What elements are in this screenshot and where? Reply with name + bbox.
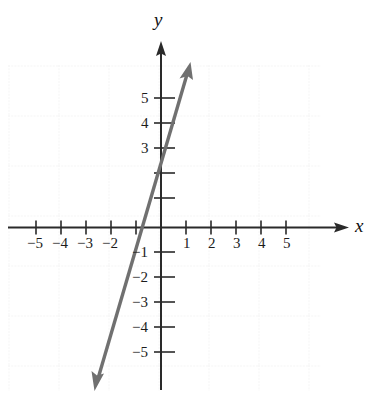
- y-tick-label-minus-3: −3: [132, 295, 148, 310]
- y-tick-label-minus-5: −5: [132, 345, 148, 360]
- y-tick-label-minus-4: −4: [132, 320, 148, 335]
- x-tick-label-minus-2: −2: [102, 236, 118, 251]
- x-tick-label-5: 5: [283, 236, 291, 251]
- y-tick-label-3: 3: [141, 141, 149, 156]
- y-tick-label-minus-1: −1: [132, 245, 148, 260]
- x-tick-label-3: 3: [233, 236, 241, 251]
- y-tick-label-minus-2: −2: [132, 270, 148, 285]
- y-axis-label: y: [154, 10, 162, 29]
- x-tick-label-4: 4: [258, 236, 266, 251]
- x-axis-label: x: [355, 216, 363, 235]
- y-tick-label-4: 4: [141, 116, 149, 131]
- coordinate-plane-figure: −5 −4 −3 −2 1 2 3 4 5 5 4 3 −1 −2 −3 −4 …: [0, 0, 381, 410]
- x-tick-label-minus-3: −3: [77, 236, 93, 251]
- x-tick-label-2: 2: [208, 236, 216, 251]
- y-tick-label-5: 5: [141, 91, 149, 106]
- x-tick-label-minus-5: −5: [27, 236, 43, 251]
- graph-canvas: [0, 0, 381, 410]
- x-tick-label-minus-4: −4: [52, 236, 68, 251]
- x-tick-label-1: 1: [183, 236, 191, 251]
